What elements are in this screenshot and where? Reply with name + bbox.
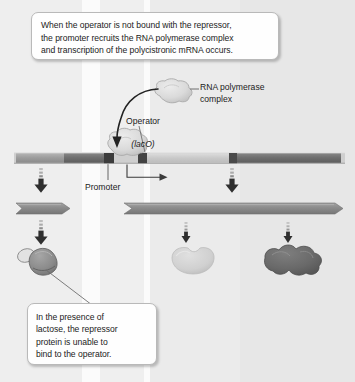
down-arrow-operon-transcription bbox=[225, 168, 238, 193]
dna-segment-operator-marker bbox=[138, 153, 147, 163]
dna-segment-lacY-marker bbox=[229, 153, 237, 163]
dna-segment-promoter bbox=[104, 153, 114, 163]
down-arrow-lacI-translation bbox=[34, 220, 47, 245]
lac-operon-diagram: When the operator is not bound with the … bbox=[0, 0, 355, 382]
permease-protein bbox=[264, 245, 321, 275]
beta-galactosidase-protein bbox=[172, 247, 214, 274]
callout-lactose-present: In the presence of lactose, the represso… bbox=[27, 303, 157, 365]
callout-top-text: When the operator is not bound with the … bbox=[41, 19, 270, 57]
dna-segment-lacZ bbox=[147, 153, 229, 162]
dna-strand bbox=[14, 152, 345, 164]
down-arrow-lacI-transcription bbox=[34, 168, 47, 193]
dna-segment-lacI-dark bbox=[64, 153, 104, 162]
mrna-polycistronic bbox=[124, 203, 343, 214]
label-operator-gene: (lacO) bbox=[131, 139, 154, 149]
label-operator-text: Operator bbox=[126, 116, 160, 126]
callout-transcription-occurs: When the operator is not bound with the … bbox=[31, 12, 279, 60]
label-promoter: Promoter bbox=[85, 182, 120, 194]
mrna-lacI bbox=[16, 203, 70, 214]
repressor-protein-with-lactose bbox=[16, 247, 57, 276]
down-arrow-lacY-translation bbox=[284, 222, 293, 243]
label-rna-polymerase-complex: RNA polymerase complex bbox=[200, 82, 264, 105]
rna-polymerase-complex-free bbox=[155, 79, 192, 103]
down-arrow-lacZ-translation bbox=[182, 222, 191, 243]
dna-segment-lacI bbox=[16, 153, 64, 162]
label-operator: Operator (lacO) bbox=[115, 104, 171, 150]
transcription-start-arrow bbox=[127, 165, 168, 181]
leader-bottom-callout bbox=[46, 270, 92, 305]
callout-bottom-text: In the presence of lactose, the represso… bbox=[36, 311, 150, 361]
dna-segment-lacY bbox=[237, 153, 341, 162]
